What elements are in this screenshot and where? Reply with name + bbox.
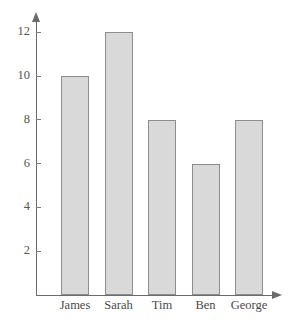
x-axis-arrow-icon <box>272 291 282 299</box>
y-tick-label: 12 <box>0 25 30 38</box>
y-tick-label: 2 <box>0 244 30 257</box>
y-tick-label: 6 <box>0 157 30 170</box>
y-tick-mark <box>36 163 41 164</box>
y-axis-line <box>36 20 37 295</box>
bar-chart: 24681012 JamesSarahTimBenGeorge <box>0 0 292 329</box>
y-tick-mark <box>36 251 41 252</box>
y-tick-label: 4 <box>0 200 30 213</box>
bar <box>105 32 133 295</box>
x-axis-label: George <box>219 299 279 313</box>
bar <box>148 120 176 295</box>
y-tick-mark <box>36 207 41 208</box>
y-tick-label: 10 <box>0 69 30 82</box>
y-tick-label: 8 <box>0 113 30 126</box>
bar <box>192 164 220 295</box>
x-axis-line <box>36 295 274 296</box>
y-tick-mark <box>36 119 41 120</box>
y-tick-mark <box>36 32 41 33</box>
bar <box>61 76 89 295</box>
y-tick-mark <box>36 76 41 77</box>
bar <box>235 120 263 295</box>
y-axis-arrow-icon <box>32 12 40 22</box>
